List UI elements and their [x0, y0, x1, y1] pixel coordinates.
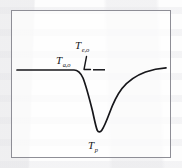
label-ta-o-symbol: T [56, 54, 62, 66]
drop-tick-marker [84, 57, 91, 70]
label-te-o-subscript: e,o [82, 46, 89, 53]
label-ta-o-subscript: a,o [63, 61, 71, 68]
temperature-curve [17, 68, 166, 132]
label-te-o-symbol: T [75, 39, 81, 51]
label-outlet-air-temperature: Ta,o [56, 55, 70, 66]
label-outlet-evaporator-temperature: Te,o [75, 40, 89, 51]
label-tp-subscript: p [95, 146, 98, 153]
label-tp-symbol: T [88, 139, 94, 151]
label-peak-temperature: Tp [88, 140, 97, 151]
